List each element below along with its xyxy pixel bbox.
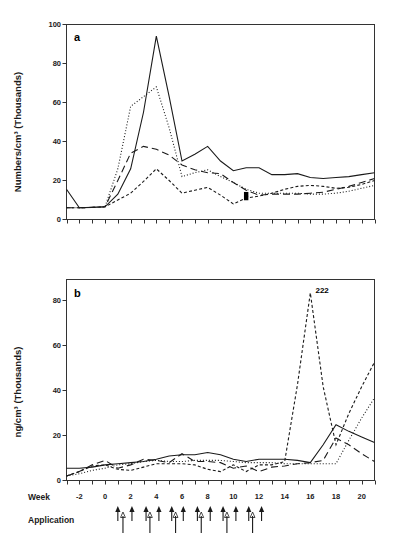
panel-b-xtick-label-2: 2 <box>129 492 133 501</box>
panel-a-y-axis-label: Numbers/cm³ (Thousands) <box>12 72 23 192</box>
panel-b-xtick-label-1: 0 <box>103 492 107 501</box>
panel-a-ytick-40: 40 <box>53 137 61 146</box>
application-arrow-filled-0 <box>115 506 120 521</box>
panel-a-series-1 <box>67 36 375 208</box>
panel-b-letter: b <box>74 287 81 299</box>
panel-b-x-tick-labels: -202468101214161820 <box>76 492 366 501</box>
panel-b-xtick-label-9: 16 <box>306 492 314 501</box>
panel-b-ytick-0: 0 <box>57 476 61 485</box>
panel-b-series-4 <box>67 293 375 476</box>
application-arrow-open-1 <box>148 512 153 533</box>
panel-b-plot-frame <box>67 280 375 481</box>
panel-b-xtick-label-8: 14 <box>280 492 289 501</box>
panel-b-xtick-label-0: -2 <box>76 492 83 501</box>
panel-a-ytick-0: 0 <box>57 215 61 224</box>
application-arrow-filled-5 <box>181 506 186 521</box>
panel-a-letter: a <box>74 31 81 43</box>
application-arrow-filled-4 <box>169 506 174 521</box>
application-arrow-open-2 <box>173 512 178 533</box>
application-arrow-filled-8 <box>220 506 225 521</box>
application-arrow-open-5 <box>250 512 255 533</box>
x-axis-rows: Week Application -202468101214161820 <box>28 492 366 533</box>
application-arrow-filled-9 <box>233 506 238 521</box>
panel-a-markers-group <box>244 192 248 200</box>
panel-a-series-4 <box>67 169 375 208</box>
application-arrow-filled-6 <box>195 506 200 521</box>
panel-b-ytick-40: 40 <box>53 386 61 395</box>
panel-a-data-marker <box>244 196 248 200</box>
panel-b-x-ticks <box>68 481 376 485</box>
application-arrow-filled-1 <box>129 506 134 521</box>
panel-b-ytick-60: 60 <box>53 341 61 350</box>
panel-b-peak-annotation: 222 <box>315 286 329 295</box>
panel-a-y-ticks <box>63 25 67 220</box>
panel-a-ytick-80: 80 <box>53 59 61 68</box>
panel-b-y-ticks <box>63 301 67 481</box>
panel-b-xtick-label-10: 18 <box>332 492 340 501</box>
panel-b: ng/cm³ (Thousands) 0 20 40 60 80 b <box>12 280 376 486</box>
application-arrow-filled-10 <box>246 506 251 521</box>
application-arrow-open-4 <box>225 512 230 533</box>
panel-b-ytick-20: 20 <box>53 431 61 440</box>
panel-a-data-marker <box>244 192 248 196</box>
panel-b-ytick-80: 80 <box>53 296 61 305</box>
panel-b-xtick-label-11: 20 <box>357 492 365 501</box>
panel-b-y-axis-label: ng/cm³ (Thousands) <box>12 347 23 438</box>
panel-b-xtick-label-3: 4 <box>154 492 159 501</box>
application-arrow-group <box>115 506 264 533</box>
application-arrow-open-3 <box>199 512 204 533</box>
panel-b-xtick-label-4: 6 <box>180 492 184 501</box>
panel-a-series-2 <box>67 87 375 208</box>
panel-b-xtick-label-7: 12 <box>255 492 263 501</box>
panel-b-xtick-label-5: 8 <box>206 492 210 501</box>
panel-b-series-3 <box>67 438 375 476</box>
panel-a-ytick-20: 20 <box>53 176 61 185</box>
application-arrow-filled-7 <box>208 506 213 521</box>
panel-a-series-group <box>67 36 375 208</box>
figure-svg: Numbers/cm³ (Thousands) 0 20 40 60 80 10… <box>0 0 396 553</box>
application-arrow-filled-11 <box>259 506 264 521</box>
application-row-label: Application <box>28 515 74 525</box>
panel-a-ytick-60: 60 <box>53 98 61 107</box>
panel-b-series-group <box>67 293 375 476</box>
week-row-label: Week <box>28 492 50 502</box>
figure-container: Numbers/cm³ (Thousands) 0 20 40 60 80 10… <box>0 0 396 553</box>
application-arrow-filled-2 <box>143 506 148 521</box>
panel-b-xtick-label-6: 10 <box>229 492 237 501</box>
panel-a-ytick-100: 100 <box>48 20 61 29</box>
application-arrow-open-0 <box>121 512 126 533</box>
panel-a-x-ticks <box>68 220 376 224</box>
panel-a: Numbers/cm³ (Thousands) 0 20 40 60 80 10… <box>12 20 376 224</box>
panel-b-series-1 <box>67 425 375 469</box>
application-arrow-filled-3 <box>156 506 161 521</box>
